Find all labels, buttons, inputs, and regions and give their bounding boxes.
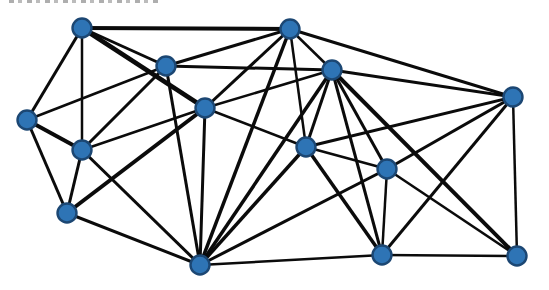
network-graph bbox=[0, 0, 549, 290]
graph-edge bbox=[205, 108, 306, 147]
graph-edge bbox=[27, 120, 67, 213]
graph-node bbox=[73, 141, 92, 160]
graph-edge bbox=[27, 28, 82, 120]
graph-edge bbox=[306, 147, 382, 255]
canvas bbox=[0, 0, 549, 290]
graph-edge bbox=[200, 147, 306, 265]
graph-edge bbox=[382, 169, 387, 255]
graph-edge bbox=[82, 66, 166, 150]
graph-edge bbox=[387, 97, 513, 169]
graph-node bbox=[73, 19, 92, 38]
graph-edge bbox=[82, 108, 205, 150]
graph-node bbox=[323, 61, 342, 80]
graph-edge bbox=[200, 70, 332, 265]
graph-node bbox=[378, 160, 397, 179]
graph-edge bbox=[387, 169, 517, 256]
graph-node bbox=[18, 111, 37, 130]
graph-edge bbox=[200, 29, 290, 265]
graph-edge bbox=[27, 66, 166, 120]
graph-edge bbox=[332, 70, 517, 256]
graph-node bbox=[508, 247, 527, 266]
graph-node bbox=[191, 256, 210, 275]
graph-node bbox=[281, 20, 300, 39]
graph-edge bbox=[166, 66, 332, 70]
graph-node bbox=[373, 246, 392, 265]
graph-node bbox=[297, 138, 316, 157]
graph-edge bbox=[200, 108, 205, 265]
graph-node bbox=[504, 88, 523, 107]
graph-edge bbox=[82, 28, 290, 29]
graph-edge bbox=[67, 213, 200, 265]
graph-edge bbox=[332, 70, 513, 97]
graph-edge bbox=[513, 97, 517, 256]
graph-edge bbox=[200, 255, 382, 265]
graph-edge bbox=[382, 255, 517, 256]
graph-edge bbox=[306, 97, 513, 147]
graph-node bbox=[196, 99, 215, 118]
graph-node bbox=[58, 204, 77, 223]
graph-edge bbox=[67, 108, 205, 213]
graph-node bbox=[157, 57, 176, 76]
graph-edge bbox=[306, 70, 332, 147]
graph-edge bbox=[82, 28, 205, 108]
graph-edge bbox=[200, 169, 387, 265]
